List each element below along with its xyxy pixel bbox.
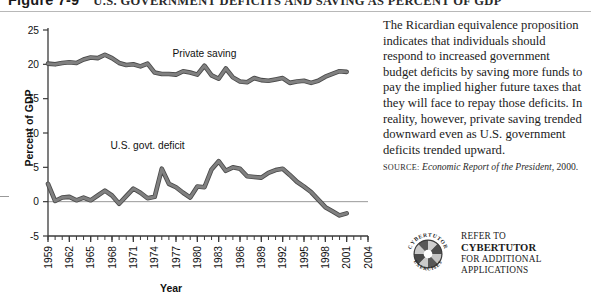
series-annotation: Private saving (172, 48, 236, 59)
x-tick-label: 1998 (320, 246, 331, 269)
y-tick-label: 20 (28, 59, 40, 70)
series-line (48, 161, 347, 215)
series-annotation: U.S. govt. deficit (110, 140, 184, 151)
caption-column: The Ricardian equivalence proposition in… (383, 18, 586, 174)
y-tick-label: -5 (30, 231, 39, 242)
x-tick-label: 1980 (192, 246, 203, 269)
cybertutor-logo-icon: CYBERTUTOR EXERCISES (404, 230, 452, 278)
x-tick-label: 1962 (64, 246, 75, 269)
line-chart-svg: -505101520251959196219651968197119741977… (0, 14, 375, 302)
cybertutor-block: CYBERTUTOR EXERCISES Refer to Cybertutor… (404, 230, 591, 278)
y-tick-label: 0 (33, 196, 39, 207)
source-year: 2000. (557, 161, 579, 172)
cybertutor-line-2: Cybertutor (461, 242, 542, 253)
x-tick-label: 1977 (171, 246, 182, 269)
figure-title: U.S. Government Deficits and Saving as P… (93, 0, 501, 8)
caption-paragraph: The Ricardian equivalence proposition in… (383, 18, 586, 158)
title-divider (0, 11, 591, 12)
chart-area: -505101520251959196219651968197119741977… (0, 14, 375, 302)
source-kicker: Source: (383, 163, 420, 172)
x-tick-label: 1959 (43, 246, 54, 269)
x-tick-label: 1983 (213, 246, 224, 269)
x-tick-label: 1968 (107, 246, 118, 269)
x-tick-label: 2001 (341, 246, 352, 269)
margin-dash (0, 196, 9, 197)
x-tick-label: 2004 (363, 246, 374, 269)
x-axis-label: Year (160, 282, 182, 294)
source-title: Economic Report of the President, (422, 161, 554, 172)
x-tick-label: 1971 (128, 246, 139, 269)
figure-number: Figure 7-9 (8, 0, 79, 8)
x-tick-label: 1965 (85, 246, 96, 269)
x-tick-label: 1986 (235, 246, 246, 269)
y-tick-label: 25 (28, 25, 40, 36)
x-tick-label: 1989 (256, 246, 267, 269)
source-line: Source: Economic Report of the President… (383, 161, 586, 174)
cybertutor-line-3: for additional (461, 254, 542, 265)
cybertutor-line-4: applications (461, 265, 542, 276)
cybertutor-text: Refer to Cybertutor for additional appli… (461, 230, 542, 277)
x-tick-label: 1992 (277, 246, 288, 269)
y-axis-label: Percent of GDP (23, 73, 35, 183)
figure-page: Figure 7-9U.S. Government Deficits and S… (0, 0, 591, 302)
x-tick-label: 1974 (149, 246, 160, 269)
cybertutor-line-1: Refer to (461, 231, 542, 242)
x-tick-label: 1995 (299, 246, 310, 269)
